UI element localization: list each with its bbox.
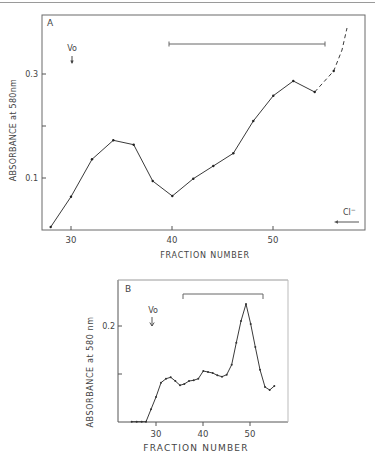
panel-a-label: A bbox=[47, 18, 54, 28]
panel-a-y-axis bbox=[42, 74, 46, 178]
panel-b-xtick-30: 30 bbox=[151, 429, 162, 439]
panel-b-xtick-50: 50 bbox=[245, 429, 256, 439]
panel-a-solid-series bbox=[51, 81, 315, 227]
panel-b-pooled-bracket bbox=[183, 294, 263, 299]
panel-a-ytick-0.1: 0.1 bbox=[25, 174, 38, 183]
panel-a-pooled-bracket bbox=[169, 42, 325, 47]
panel-a-frame bbox=[42, 15, 365, 230]
panel-b-vo-label: Vo bbox=[148, 306, 158, 315]
panel-b-y-axis bbox=[118, 326, 122, 374]
panel-b-series bbox=[132, 304, 275, 422]
panel-a-ytick-0.3: 0.3 bbox=[25, 70, 38, 79]
panel-a-cl-label: Cl− bbox=[343, 206, 356, 217]
panel-b-vo-arrow-icon bbox=[150, 317, 154, 326]
panel-a-xtick-50: 50 bbox=[268, 235, 279, 245]
panel-a: A 0.3 0.1 ABSORBANCE at 580nm 30 40 50 F… bbox=[9, 15, 365, 260]
panel-b-xtick-40: 40 bbox=[198, 429, 209, 439]
panel-a-vo-arrow-icon bbox=[70, 56, 73, 64]
panel-b: B 0.2 ABSORBANCE at 580 nm 30 40 50 FRAC… bbox=[86, 280, 288, 453]
panel-a-cl-gradient-arrow-icon bbox=[334, 220, 359, 224]
panel-a-x-axis bbox=[71, 226, 273, 230]
panel-b-x-axis-title: FRACTION NUMBER bbox=[143, 443, 248, 453]
panel-a-y-axis-title: ABSORBANCE at 580nm bbox=[9, 79, 18, 181]
panel-a-xtick-40: 40 bbox=[167, 235, 178, 245]
panel-b-label: B bbox=[125, 284, 131, 294]
panel-a-xtick-30: 30 bbox=[66, 235, 77, 245]
panel-b-y-axis-title: ABSORBANCE at 580 nm bbox=[86, 316, 95, 427]
panel-b-x-axis bbox=[156, 422, 250, 426]
panel-a-dashed-series bbox=[315, 28, 347, 92]
figure-canvas: A 0.3 0.1 ABSORBANCE at 580nm 30 40 50 F… bbox=[0, 0, 375, 459]
panel-b-ytick-0.2: 0.2 bbox=[102, 322, 115, 331]
panel-a-x-axis-title: FRACTION NUMBER bbox=[160, 251, 250, 260]
panel-a-data-points bbox=[50, 70, 335, 228]
panel-a-vo-label: Vo bbox=[67, 44, 77, 53]
